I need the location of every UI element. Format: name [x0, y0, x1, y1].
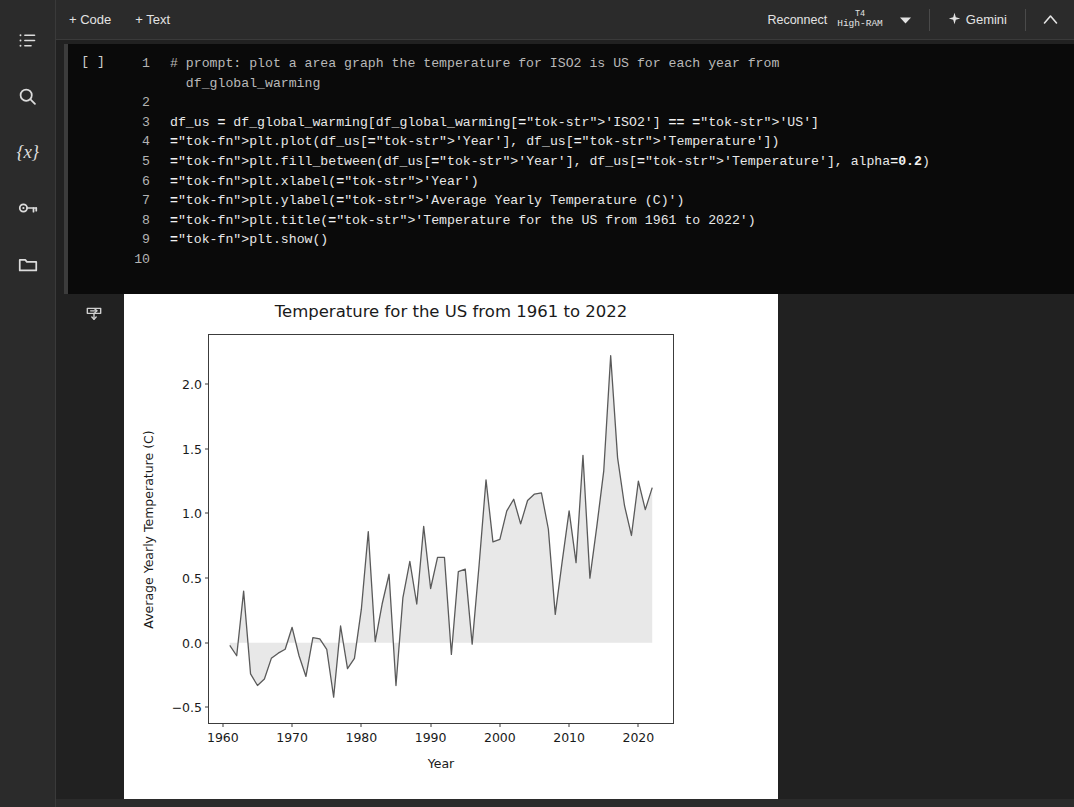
code-line: 2 [128, 93, 1074, 113]
code-line-text: df_us = df_global_warming[df_global_warm… [170, 113, 819, 133]
chart-ylabel-text: Average Yearly Temperature (C) [141, 430, 156, 628]
toolbar-left-group: + Code + Text [64, 9, 175, 30]
line-number: 2 [128, 93, 150, 113]
code-line: 3df_us = df_global_warming[df_global_war… [128, 113, 1074, 133]
chart-title: Temperature for the US from 1961 to 2022 [124, 302, 778, 321]
cell-output: Temperature for the US from 1961 to 2022… [64, 294, 1074, 807]
y-axis-tick-label: 0.0 [182, 635, 202, 650]
line-number: 6 [128, 172, 150, 192]
code-line: 1# prompt: plot a area graph the tempera… [128, 54, 1074, 74]
code-line: 4="tok-fn">plt.plot(df_us[="tok-str">'Ye… [128, 132, 1074, 152]
variables-icon: {x} [16, 141, 38, 163]
code-line: 8="tok-fn">plt.title(="tok-str">'Tempera… [128, 211, 1074, 231]
bottom-bar [56, 799, 1074, 807]
line-number: 9 [128, 230, 150, 250]
chart-xlabel: Year [208, 756, 674, 771]
key-icon [17, 197, 39, 219]
code-line-text: ="tok-fn">plt.show() [170, 230, 328, 250]
output-gutter [64, 294, 124, 807]
code-line-text: # prompt: plot a area graph the temperat… [170, 54, 779, 74]
x-axis-tick-label: 2010 [553, 730, 585, 745]
code-line: 9="tok-fn">plt.show() [128, 230, 1074, 250]
code-line: 10 [128, 250, 1074, 270]
line-number [128, 74, 150, 94]
left-icon-rail: {x} [0, 0, 56, 807]
line-number: 4 [128, 132, 150, 152]
toolbar-right-group: Reconnect T4 High-RAM Gemini [759, 6, 1064, 34]
sidebar-item-secrets[interactable] [8, 186, 48, 230]
add-code-cell-button[interactable]: + Code [64, 9, 116, 30]
x-axis-tick-mark [499, 723, 500, 727]
notebook-body: [ ] 1# prompt: plot a area graph the tem… [56, 40, 1074, 807]
code-line-text: df_global_warming [170, 74, 320, 94]
y-axis-tick-label: 0.5 [182, 571, 202, 586]
code-line: 5="tok-fn">plt.fill_between(df_us[="tok-… [128, 152, 1074, 172]
toolbar-divider-2 [1025, 9, 1026, 31]
x-axis-tick-label: 2020 [622, 730, 654, 745]
add-text-cell-button[interactable]: + Text [130, 9, 175, 30]
chart-ylabel: Average Yearly Temperature (C) [138, 334, 158, 724]
chart-line-series [230, 356, 652, 697]
line-number: 7 [128, 191, 150, 211]
code-line: df_global_warming [128, 74, 1074, 94]
y-axis-tick-label: −0.5 [172, 700, 202, 715]
runtime-ram-label: High-RAM [837, 19, 883, 29]
x-axis-tick-mark [638, 723, 639, 727]
y-axis-tick-mark [205, 707, 209, 708]
add-code-label: + Code [69, 12, 111, 27]
line-number: 3 [128, 113, 150, 133]
y-axis-tick-label: 1.5 [182, 441, 202, 456]
collapse-toolbar-button[interactable] [1036, 6, 1064, 34]
sidebar-item-table-of-contents[interactable] [8, 18, 48, 62]
notebook-toolbar: + Code + Text Reconnect T4 High-RAM [56, 0, 1074, 40]
line-number: 1 [128, 54, 150, 74]
sidebar-item-search[interactable] [8, 74, 48, 118]
code-lines: 1# prompt: plot a area graph the tempera… [128, 54, 1074, 270]
chart-area-fill [230, 356, 652, 697]
chart-plot-area [209, 335, 673, 723]
x-axis-tick-label: 1990 [415, 730, 447, 745]
y-axis-tick-mark [205, 642, 209, 643]
code-line-text: ="tok-fn">plt.ylabel(="tok-str">'Average… [170, 191, 684, 211]
y-axis-tick-label: 1.0 [182, 506, 202, 521]
folder-icon [17, 253, 39, 275]
x-axis-tick-mark [569, 723, 570, 727]
x-axis-tick-label: 2000 [484, 730, 516, 745]
sidebar-item-variables[interactable]: {x} [8, 130, 48, 174]
chevron-down-icon [899, 11, 912, 29]
y-axis-tick-mark [205, 384, 209, 385]
add-text-label: + Text [135, 12, 170, 27]
chart-axes: −0.50.00.51.01.52.0196019701980199020002… [208, 334, 674, 724]
x-axis-tick-label: 1970 [276, 730, 308, 745]
line-number: 8 [128, 211, 150, 231]
x-axis-tick-mark [292, 723, 293, 727]
y-axis-tick-mark [205, 513, 209, 514]
code-line-text: ="tok-fn">plt.xlabel(="tok-str">'Year') [170, 172, 479, 192]
line-number: 10 [128, 250, 150, 270]
runtime-type-chip[interactable]: T4 High-RAM [835, 8, 887, 30]
code-line-text: ="tok-fn">plt.fill_between(df_us[="tok-s… [170, 152, 930, 172]
code-line-text: ="tok-fn">plt.plot(df_us[="tok-str">'Yea… [170, 132, 779, 152]
code-cell: [ ] 1# prompt: plot a area graph the tem… [64, 44, 1074, 294]
chevron-up-icon [1043, 11, 1058, 29]
reconnect-button[interactable]: Reconnect [759, 9, 835, 31]
matplotlib-figure: Temperature for the US from 1961 to 2022… [124, 294, 778, 801]
toc-icon [17, 30, 38, 51]
x-axis-tick-label: 1960 [207, 730, 239, 745]
code-line: 6="tok-fn">plt.xlabel(="tok-str">'Year') [128, 172, 1074, 192]
runtime-menu-button[interactable] [893, 7, 919, 33]
sparkle-icon [948, 12, 961, 28]
colab-notebook-window: {x} [0, 0, 1074, 807]
output-actions-icon[interactable] [81, 302, 107, 328]
run-cell-button[interactable]: [ ] [76, 54, 110, 69]
sidebar-item-files[interactable] [8, 242, 48, 286]
x-axis-tick-mark [222, 723, 223, 727]
gemini-button[interactable]: Gemini [940, 8, 1015, 32]
x-axis-tick-mark [361, 723, 362, 727]
y-axis-tick-mark [205, 448, 209, 449]
gemini-label: Gemini [966, 12, 1007, 27]
x-axis-tick-mark [430, 723, 431, 727]
code-editor[interactable]: [ ] 1# prompt: plot a area graph the tem… [68, 44, 1074, 294]
y-axis-tick-label: 2.0 [182, 377, 202, 392]
main-column: + Code + Text Reconnect T4 High-RAM [56, 0, 1074, 807]
